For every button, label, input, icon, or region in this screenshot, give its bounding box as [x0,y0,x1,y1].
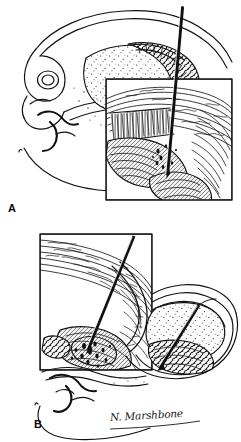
panel-label-a: A [8,203,16,214]
panel-label-b: B [34,419,42,430]
artist-signature: N. Marshbone [108,408,204,434]
figure-root: A [0,0,241,442]
panel-a-illustration [0,0,241,221]
panel-a: A [0,0,241,221]
